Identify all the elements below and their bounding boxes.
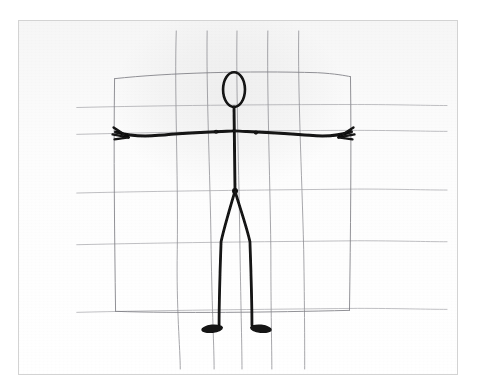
figure-right-leg [235,191,252,325]
screenshot-canvas: Pencil sketch of a stick figure [0,0,478,392]
grid-vertical-lines [176,31,305,369]
grid-vline-1 [176,31,181,369]
figure-left-leg [219,191,235,325]
grid-vline-2 [207,31,214,369]
proportion-box-left [114,79,115,312]
proportion-box-right [349,77,350,311]
stick-figure [113,72,355,334]
pencil-drawing [19,21,457,374]
grid-hline-1 [77,105,447,108]
grid-hline-4 [77,241,447,245]
figure-spine [234,107,235,190]
grid-vline-4 [268,31,272,369]
figure-right-arm [234,131,351,136]
left-hand-finger-lower [115,137,129,139]
figure-right-shoulder-joint [254,130,258,134]
grid-vline-5 [299,31,305,369]
scanned-image-frame [18,20,458,375]
figure-head [223,72,245,107]
grid-hline-3 [77,189,447,193]
figure-left-shoulder-joint [214,130,218,134]
